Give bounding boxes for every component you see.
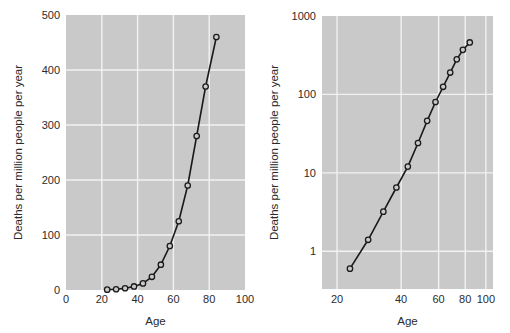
y-tick-label: 0 bbox=[54, 284, 60, 296]
data-point-marker bbox=[214, 34, 219, 39]
data-point-marker bbox=[185, 183, 190, 188]
data-point-marker bbox=[454, 57, 459, 62]
data-point-marker bbox=[149, 274, 154, 279]
data-point-marker bbox=[131, 284, 136, 289]
data-point-marker bbox=[448, 70, 453, 75]
y-tick-label: 1 bbox=[310, 245, 316, 257]
data-point-marker bbox=[176, 219, 181, 224]
y-tick-label: 1000 bbox=[292, 10, 316, 22]
data-point-marker bbox=[467, 40, 472, 45]
data-point-marker bbox=[167, 243, 172, 248]
y-tick-label: 400 bbox=[42, 64, 60, 76]
x-tick-label: 40 bbox=[395, 293, 407, 305]
y-tick-label: 300 bbox=[42, 119, 60, 131]
figure-container: 0204060801000100200300400500AgeDeaths pe… bbox=[0, 0, 510, 333]
data-point-marker bbox=[460, 47, 465, 52]
data-point-marker bbox=[405, 164, 410, 169]
x-tick-label: 60 bbox=[167, 293, 179, 305]
y-tick-label: 100 bbox=[42, 229, 60, 241]
y-tick-label: 100 bbox=[298, 88, 316, 100]
data-point-marker bbox=[140, 281, 145, 286]
data-point-marker bbox=[424, 118, 429, 123]
data-point-marker bbox=[365, 237, 370, 242]
y-tick-label: 500 bbox=[42, 9, 60, 21]
dual-panel-chart: 0204060801000100200300400500AgeDeaths pe… bbox=[0, 0, 510, 333]
x-axis-title: Age bbox=[397, 315, 417, 327]
data-point-marker bbox=[113, 287, 118, 292]
x-tick-label: 80 bbox=[203, 293, 215, 305]
plot-area-background bbox=[66, 15, 245, 290]
x-tick-label: 20 bbox=[331, 293, 343, 305]
y-tick-label: 200 bbox=[42, 174, 60, 186]
x-axis-title: Age bbox=[145, 315, 165, 327]
data-point-marker bbox=[158, 262, 163, 267]
x-tick-label: 60 bbox=[433, 293, 445, 305]
data-point-marker bbox=[440, 84, 445, 89]
data-point-marker bbox=[347, 266, 352, 271]
x-tick-label: 100 bbox=[477, 293, 495, 305]
y-axis-title: Deaths per million people per year bbox=[268, 65, 280, 240]
plot-area-background bbox=[322, 16, 493, 289]
panel-loglog-panel: 204060801001101001000AgeDeaths per milli… bbox=[268, 10, 495, 327]
x-tick-label: 20 bbox=[96, 293, 108, 305]
x-tick-label: 100 bbox=[236, 293, 254, 305]
data-point-marker bbox=[122, 286, 127, 291]
data-point-marker bbox=[433, 99, 438, 104]
y-axis-title: Deaths per million people per year bbox=[12, 65, 24, 240]
y-tick-label: 10 bbox=[304, 167, 316, 179]
data-point-marker bbox=[415, 140, 420, 145]
data-point-marker bbox=[381, 209, 386, 214]
data-point-marker bbox=[104, 287, 109, 292]
x-tick-label: 40 bbox=[131, 293, 143, 305]
data-point-marker bbox=[203, 84, 208, 89]
x-tick-label: 80 bbox=[459, 293, 471, 305]
data-point-marker bbox=[394, 185, 399, 190]
x-tick-label: 0 bbox=[63, 293, 69, 305]
panel-linear-panel: 0204060801000100200300400500AgeDeaths pe… bbox=[12, 9, 254, 327]
data-point-marker bbox=[194, 133, 199, 138]
